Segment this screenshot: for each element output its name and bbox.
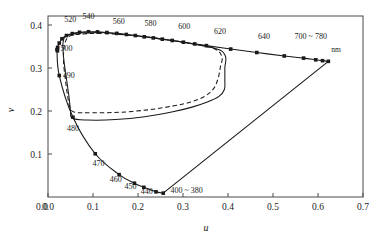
y-tick-label: 0.3 [30, 64, 42, 74]
y-axis-tick-labels: 0.10.20.30.40.0 [30, 21, 48, 213]
locus-marker [71, 32, 75, 36]
locus-marker [205, 44, 209, 48]
locus-marker [314, 58, 318, 62]
x-axis-tick-labels: 0.00.10.20.30.40.50.60.7 [42, 202, 369, 212]
locus-marker [229, 47, 233, 51]
locus-marker [282, 54, 286, 58]
locus-marker [161, 191, 165, 195]
y-axis-title: v [5, 107, 16, 112]
locus-marker [182, 40, 186, 44]
plot-frame-rect [48, 16, 363, 197]
x-tick-label: 0.4 [222, 202, 234, 212]
locus-marker [115, 32, 119, 36]
wavelength-label: 600 [178, 22, 190, 31]
locus-marker [125, 33, 129, 37]
y-tick-label: 0.1 [30, 150, 42, 160]
locus-marker [65, 34, 69, 38]
locus-marker [134, 34, 138, 38]
locus-marker [255, 51, 259, 55]
x-tick-label: 0.6 [312, 202, 324, 212]
locus-marker [302, 56, 306, 60]
unit-label-nm: nm [331, 45, 341, 54]
wavelength-label: 520 [64, 15, 76, 24]
purple-line-segment [163, 61, 328, 193]
locus-marker [57, 74, 61, 78]
locus-marker [55, 48, 59, 52]
locus-marker [152, 36, 156, 40]
plot-frame [48, 16, 363, 197]
wavelength-label: 490 [63, 71, 75, 80]
locus-marker [78, 31, 82, 35]
locus-marker [154, 190, 158, 194]
locus-marker [193, 42, 197, 46]
locus-marker [87, 30, 91, 34]
wavelength-label: 540 [83, 12, 95, 21]
x-tick-label: 0.1 [87, 202, 99, 212]
locus-marker [327, 60, 331, 64]
spectral-locus-path [57, 32, 328, 193]
locus-marker [321, 59, 325, 63]
locus-marker [93, 152, 97, 156]
wavelength-label: 500 [61, 44, 73, 53]
locus-marker [71, 115, 75, 119]
wavelength-label: 560 [113, 17, 125, 26]
axis-ticks [48, 25, 363, 197]
plot-svg: 0.00.10.20.30.40.50.60.7 0.10.20.30.40.0… [0, 0, 385, 241]
wavelength-label: 480 [67, 124, 79, 133]
wavelength-label: 470 [93, 159, 105, 168]
wavelength-label: 440 [141, 187, 153, 196]
locus-marker [60, 37, 64, 41]
wavelength-label: 400 ~ 380 [170, 186, 202, 195]
y-tick-label: 0.2 [30, 107, 42, 117]
locus-marker [161, 37, 165, 41]
wavelength-label: 640 [258, 32, 270, 41]
y-tick-label: 0.4 [30, 21, 42, 31]
locus-marker [143, 35, 147, 39]
x-tick-label: 0.7 [357, 202, 369, 212]
x-tick-label: 0.2 [132, 202, 144, 212]
wavelength-label: 460 [110, 175, 122, 184]
locus-marker [170, 39, 174, 43]
x-axis-title: u [204, 222, 209, 233]
y-tick-label-zero: 0.0 [36, 202, 48, 212]
wavelength-label: 620 [214, 27, 226, 36]
locus-marker [96, 30, 100, 34]
x-tick-label: 0.5 [267, 202, 279, 212]
x-tick-label: 0.3 [177, 202, 189, 212]
wavelength-label: 580 [145, 19, 157, 28]
purple-line [163, 61, 328, 193]
wavelength-label: 450 [125, 182, 137, 191]
wavelength-label: 700 ~ 780 [295, 32, 327, 41]
spectral-locus-curve [57, 32, 328, 193]
chromaticity-diagram-figure: 0.00.10.20.30.40.50.60.7 0.10.20.30.40.0… [0, 0, 385, 241]
locus-marker [105, 31, 109, 35]
